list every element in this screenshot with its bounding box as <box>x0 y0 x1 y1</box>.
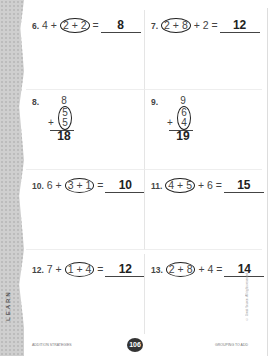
page-footer: ADDITION STRATEGIES 106 GROUPING TO ADD <box>26 340 262 352</box>
problem-10: 10.6 + 3 + 1 =10 <box>26 170 144 250</box>
answer-field[interactable]: 18 <box>54 131 74 141</box>
answer-field[interactable]: 12 <box>105 262 145 277</box>
circled-pair: 64 <box>177 106 191 130</box>
page-edge <box>267 8 268 356</box>
problem-7: 7.2 + 8 + 2 =12 <box>144 10 262 90</box>
problem-6: 6.4 + 2 + 2 =8 <box>26 10 144 90</box>
problem-number: 9. <box>151 97 158 107</box>
problem-number: 8. <box>32 97 39 107</box>
circled-pair: 2 + 2 <box>60 18 90 33</box>
circled-pair: 55 <box>58 106 72 130</box>
circled-pair: 2 + 8 <box>161 18 191 33</box>
expr-post: + 6 = <box>195 179 222 191</box>
side-tab-label: LEARN <box>5 276 19 336</box>
answer-field[interactable]: 15 <box>224 178 264 193</box>
page-number: 106 <box>127 338 143 352</box>
problem-number: 7. <box>151 21 158 31</box>
footer-right-label: GROUPING TO ADD <box>215 343 248 347</box>
plus-sign: + <box>167 118 173 128</box>
expr-post: + 4 = <box>195 263 222 275</box>
answer-field[interactable]: 19 <box>173 131 193 141</box>
expr-post: = <box>94 179 103 191</box>
addend-top: 8 <box>54 96 74 106</box>
problem-9: 9. 9 64 + 19 <box>144 90 262 170</box>
expr-pre: 6 + <box>47 179 65 191</box>
plus-sign: + <box>48 118 54 128</box>
addend-top: 9 <box>173 96 193 106</box>
footer-left-label: ADDITION STRATEGIES <box>32 343 72 347</box>
addend-bot: 5 <box>59 118 71 128</box>
answer-field[interactable]: 10 <box>105 178 145 193</box>
circled-pair: 1 + 4 <box>65 262 95 277</box>
expr-post: = <box>94 263 103 275</box>
problem-number: 13. <box>151 265 163 275</box>
problem-number: 12. <box>32 265 44 275</box>
problem-number: 10. <box>32 181 44 191</box>
addend-bot: 4 <box>178 118 190 128</box>
answer-field[interactable]: 12 <box>220 18 260 33</box>
problem-number: 6. <box>32 21 39 31</box>
copyright-notice: © Great Source. All rights reserved. <box>245 272 249 321</box>
problem-12: 12.7 + 1 + 4 =12 <box>26 254 144 334</box>
circled-pair: 2 + 8 <box>166 262 196 277</box>
problem-number: 11. <box>151 181 162 191</box>
expr-post: = <box>90 19 99 31</box>
problem-8: 8. 8 55 + 18 <box>26 90 144 170</box>
circled-pair: 3 + 1 <box>65 178 95 193</box>
circled-pair: 4 + 5 <box>165 178 195 193</box>
answer-field[interactable]: 8 <box>101 18 141 33</box>
expr-pre: 7 + <box>47 263 65 275</box>
expr-post: + 2 = <box>191 19 218 31</box>
expr-pre: 4 + <box>42 19 60 31</box>
problem-11: 11.4 + 5 + 6 =15 <box>144 170 262 250</box>
